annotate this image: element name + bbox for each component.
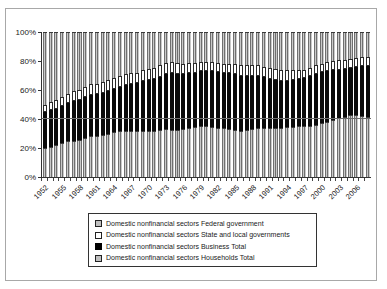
bar-segment bbox=[66, 103, 70, 141]
bar-segment bbox=[181, 64, 185, 74]
bar-segment bbox=[222, 64, 226, 73]
bar-segment bbox=[141, 131, 145, 177]
bar-segment bbox=[320, 32, 324, 64]
bar-segment bbox=[112, 32, 116, 78]
bar-segment bbox=[204, 32, 208, 62]
bar-segment bbox=[66, 32, 70, 94]
bar-segment bbox=[250, 65, 254, 75]
bar-segment bbox=[129, 84, 133, 131]
bar-segment bbox=[360, 66, 364, 116]
bar-segment bbox=[291, 70, 295, 79]
bar-segment bbox=[72, 141, 76, 177]
bar-segment bbox=[170, 32, 174, 62]
bar-segment bbox=[279, 81, 283, 128]
bar-segment bbox=[285, 81, 289, 127]
bar-segment bbox=[314, 65, 318, 74]
bar-segment bbox=[60, 106, 64, 143]
bar-segment bbox=[285, 32, 289, 70]
bar-segment bbox=[101, 82, 105, 93]
bar-segment bbox=[227, 32, 231, 64]
bar-segment bbox=[147, 69, 151, 80]
bar-segment bbox=[354, 115, 358, 177]
bar-segment bbox=[279, 70, 283, 81]
y-axis-label: 20% bbox=[20, 144, 36, 153]
x-axis-label: 1955 bbox=[49, 183, 67, 201]
bar-segment bbox=[360, 32, 364, 57]
bar-segment bbox=[54, 100, 58, 109]
bar-segment bbox=[325, 122, 329, 177]
bar-segment bbox=[77, 90, 81, 100]
bar-segment bbox=[193, 32, 197, 63]
bar-segment bbox=[187, 32, 191, 63]
bar-segment bbox=[268, 32, 272, 68]
bar-segment bbox=[101, 32, 105, 82]
bar-segment bbox=[141, 32, 145, 70]
bar-segment bbox=[152, 32, 156, 68]
bar-segment bbox=[268, 79, 272, 128]
bar-segment bbox=[49, 32, 53, 102]
bar-segment bbox=[343, 60, 347, 69]
bar-segment bbox=[268, 128, 272, 177]
x-axis-label: 1982 bbox=[205, 183, 223, 201]
bar-segment bbox=[233, 64, 237, 74]
legend-box: Domestic nonfinancial sectors Federal go… bbox=[88, 213, 317, 267]
bar-segment bbox=[222, 128, 226, 177]
bar-segment bbox=[239, 32, 243, 65]
bar-segment bbox=[164, 129, 168, 177]
bar-segment bbox=[199, 126, 203, 177]
bar-segment bbox=[285, 70, 289, 80]
bar-segment bbox=[337, 60, 341, 69]
bar-segment bbox=[216, 32, 220, 63]
bar-segment bbox=[60, 143, 64, 177]
legend-swatch-gray-pattern bbox=[95, 255, 102, 262]
bar-segment bbox=[256, 76, 260, 129]
bar-segment bbox=[297, 70, 301, 79]
bar-segment bbox=[147, 131, 151, 177]
bar-segment bbox=[54, 145, 58, 177]
bar-segment bbox=[170, 130, 174, 177]
legend-swatch-gray-pattern bbox=[95, 220, 102, 227]
bar-segment bbox=[239, 65, 243, 76]
bar-segment bbox=[354, 58, 358, 67]
bar-segment bbox=[158, 130, 162, 177]
legend-label: Domestic nonfinancial sectors Households… bbox=[106, 254, 255, 262]
bar-segment bbox=[325, 32, 329, 62]
bar-segment bbox=[77, 100, 81, 140]
bar-segment bbox=[152, 131, 156, 177]
bar-segment bbox=[245, 65, 249, 76]
bar-segment bbox=[297, 79, 301, 126]
bar-segment bbox=[77, 140, 81, 177]
bar-segment bbox=[297, 32, 301, 70]
bar-segment bbox=[204, 126, 208, 177]
bar-segment bbox=[268, 68, 272, 79]
bar-segment bbox=[337, 118, 341, 177]
bar-segment bbox=[66, 94, 70, 103]
bar-segment bbox=[181, 74, 185, 129]
bar-segment bbox=[135, 131, 139, 177]
x-axis-label: 1967 bbox=[119, 183, 137, 201]
y-axis-label: 100% bbox=[16, 28, 36, 37]
bar-segment bbox=[158, 32, 162, 65]
bar-segment bbox=[227, 64, 231, 73]
bar-segment bbox=[89, 95, 93, 136]
bar-segment bbox=[273, 80, 277, 128]
bar-segment bbox=[227, 73, 231, 129]
bar-segment bbox=[245, 130, 249, 177]
bar-segment bbox=[325, 71, 329, 122]
bar-segment bbox=[152, 79, 156, 131]
x-axis-label: 1994 bbox=[274, 183, 292, 201]
bar-segment bbox=[302, 126, 306, 177]
bar-segment bbox=[366, 57, 370, 66]
x-axis-label: 2000 bbox=[309, 183, 327, 201]
bar-segment bbox=[164, 74, 168, 129]
bar-segment bbox=[222, 32, 226, 64]
bar-segment bbox=[49, 102, 53, 110]
bar-segment bbox=[60, 97, 64, 106]
bar-segment bbox=[233, 74, 237, 130]
y-axis: 0%20%40%60%80%100% bbox=[5, 32, 41, 177]
x-axis-label: 1988 bbox=[240, 183, 258, 201]
legend-label: Domestic nonfinancial sectors State and … bbox=[106, 231, 290, 239]
bar-segment bbox=[112, 132, 116, 177]
bar-segment bbox=[175, 63, 179, 74]
bar-segment bbox=[158, 77, 162, 130]
